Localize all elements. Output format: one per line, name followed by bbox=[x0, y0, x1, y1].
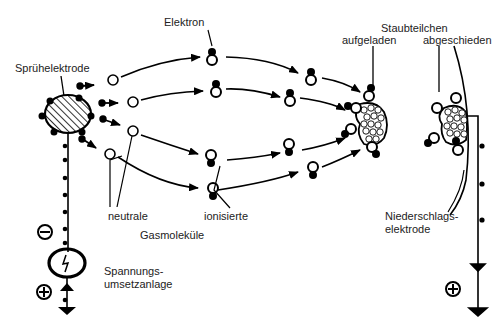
label-collector-electrode-2: elektrode bbox=[385, 223, 430, 236]
label-gas-molecules: Gasmoleküle bbox=[140, 229, 204, 242]
label-power-supply-2: umsetzanlage bbox=[104, 278, 173, 291]
plus-sign-left bbox=[37, 285, 51, 299]
neutral-molecules bbox=[105, 75, 138, 159]
label-neutral: neutrale bbox=[108, 210, 148, 223]
ionized-molecules bbox=[206, 49, 318, 199]
label-power-supply-1: Spannungs- bbox=[104, 265, 163, 278]
plus-sign-right bbox=[446, 282, 460, 296]
precipitator-diagram: Elektron Sprühelektrode Staubteilchen au… bbox=[0, 0, 504, 330]
label-spray-electrode: Sprühelektrode bbox=[15, 62, 90, 75]
label-ionized: ionisierte bbox=[204, 210, 248, 223]
lightning-icon bbox=[63, 255, 68, 272]
collector-electrode bbox=[450, 46, 487, 316]
charged-dust-particle bbox=[342, 46, 387, 157]
leader-lines bbox=[110, 30, 464, 212]
power-circuit bbox=[49, 133, 85, 315]
label-collector-electrode-1: Niederschlags- bbox=[385, 210, 458, 223]
minus-sign bbox=[38, 225, 52, 239]
label-electron: Elektron bbox=[164, 16, 204, 29]
deposited-dust-particle bbox=[425, 46, 467, 155]
diagram-canvas bbox=[0, 0, 504, 330]
ion-paths bbox=[118, 57, 360, 190]
label-deposited: abgeschieden bbox=[423, 34, 492, 47]
label-charged: aufgeladen bbox=[342, 34, 396, 47]
